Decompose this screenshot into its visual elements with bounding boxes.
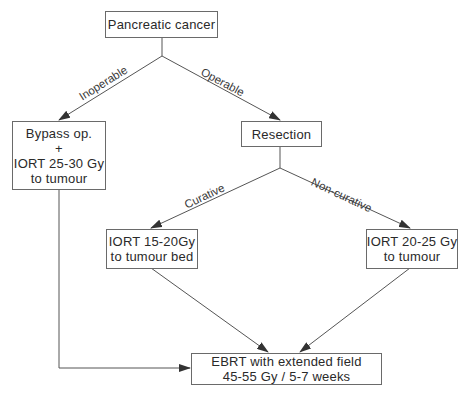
- node-label: IORT 15-20Gy: [109, 234, 195, 249]
- node-label: IORT 25-30 Gy: [14, 156, 104, 171]
- node-label: 45-55 Gy / 5-7 weeks: [223, 369, 351, 384]
- node-label: Resection: [252, 127, 312, 142]
- connector-lines: [0, 0, 468, 395]
- node-label: to tumour: [384, 249, 441, 264]
- node-resection: Resection: [241, 121, 322, 147]
- node-label: Pancreatic cancer: [108, 17, 215, 32]
- node-iort-curative: IORT 15-20Gy to tumour bed: [106, 229, 198, 269]
- node-bypass-iort: Bypass op. + IORT 25-30 Gy to tumour: [12, 121, 106, 190]
- node-label: to tumour: [31, 171, 88, 186]
- node-label: EBRT with extended field: [211, 354, 361, 369]
- node-label: +: [55, 141, 63, 156]
- node-ebrt: EBRT with extended field 45-55 Gy / 5-7 …: [191, 353, 382, 385]
- node-iort-noncurative: IORT 20-25 Gy to tumour: [366, 229, 458, 269]
- node-label: IORT 20-25 Gy: [367, 234, 457, 249]
- node-pancreatic-cancer: Pancreatic cancer: [105, 11, 218, 38]
- node-label: to tumour bed: [111, 249, 194, 264]
- node-label: Bypass op.: [26, 126, 92, 141]
